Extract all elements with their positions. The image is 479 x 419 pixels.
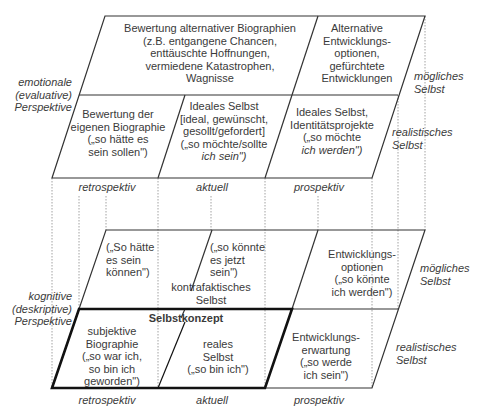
cell-line: optionen	[320, 261, 404, 274]
selbstkonzept-title: Selbstkonzept	[146, 312, 226, 325]
cell-line: („so möchte/sollte	[170, 138, 278, 151]
label-line: Selbst	[166, 294, 256, 307]
cell-ideal-self-prospective: Ideales Selbst, Identitätsprojekte („so …	[280, 106, 384, 156]
cell-line: („so hätte es	[68, 133, 168, 146]
cell-line: es jetzt	[210, 254, 270, 267]
cell-line: („so war ich,	[70, 350, 154, 363]
cell-line: enttäuschte Hoffnungen,	[112, 47, 308, 60]
cell-line: („so könnte	[210, 241, 270, 254]
cell-line: ich werden")	[320, 286, 404, 299]
cell-line: ich werden")	[280, 144, 384, 157]
cell-line: Entwicklungs-	[286, 331, 366, 344]
label-line: realistisches	[396, 341, 478, 354]
cell-real-self: reales Selbst („so bin ich")	[180, 338, 256, 376]
cell-line: optionen,	[302, 47, 412, 60]
cell-line: [ideal, gewünscht,	[170, 113, 278, 126]
cell-alternative-biographies: Bewertung alternativer Biographien (z.B.…	[112, 22, 308, 85]
label-line: Selbst	[392, 139, 478, 152]
cell-line: ich sein")	[286, 369, 366, 382]
cell-line: („so bin ich")	[180, 363, 256, 376]
cognitive-perspective-label: kognitive (deskriptive) Perspektive	[2, 290, 72, 328]
emotional-perspective-label: emotionale (evaluative) Perspektive	[2, 76, 72, 114]
cell-development-options: Entwicklungs- optionen („so könnte ich w…	[320, 248, 404, 298]
cell-line: Bewertung der	[68, 108, 168, 121]
cell-line: Ideales Selbst	[170, 100, 278, 113]
time-label-actual-lower: aktuell	[172, 394, 252, 407]
label-line: Selbst	[396, 354, 478, 367]
cell-line: es sein	[106, 254, 166, 267]
cell-line: Bewertung alternativer Biographien	[112, 22, 308, 35]
cell-line: („so werde	[286, 356, 366, 369]
label-line: kontrafaktisches	[166, 281, 256, 294]
cell-subjective-biography: subjektive Biographie („so war ich, so b…	[70, 325, 154, 388]
cell-line: sein sollen")	[68, 146, 168, 159]
cell-alternative-development-options: Alternative Entwicklungs- optionen, gefü…	[302, 22, 412, 85]
cell-line: so bin ich	[70, 363, 154, 376]
cell-could-be-now: („so könnte es jetzt sein")	[210, 241, 270, 279]
cell-line: („So hätte	[106, 241, 166, 254]
cell-line: Entwicklungs-	[302, 35, 412, 48]
time-label-prospective-upper: prospektiv	[274, 181, 364, 194]
cell-line: vermiedene Katastrophen,	[112, 60, 308, 73]
cell-line: („so möchte	[280, 131, 384, 144]
cell-line: Wagnisse	[112, 72, 308, 85]
label-line: Perspektive	[2, 101, 72, 114]
time-label-prospective-lower: prospektiv	[274, 394, 364, 407]
cell-line: Alternative	[302, 22, 412, 35]
cell-line: reales	[180, 338, 256, 351]
label-line: Selbst	[414, 83, 478, 96]
cell-line: Entwicklungen	[302, 72, 412, 85]
cell-could-have-been: („So hätte es sein können")	[106, 241, 166, 279]
label-line: realistisches	[392, 126, 478, 139]
cell-line: Entwicklungs-	[320, 248, 404, 261]
label-line: kognitive	[2, 290, 72, 303]
cell-line: („so könnte	[320, 273, 404, 286]
counterfactual-self-label: kontrafaktisches Selbst	[166, 281, 256, 306]
cell-evaluation-own-biography: Bewertung der eigenen Biographie („so hä…	[68, 108, 168, 158]
label-line: Perspektive	[2, 315, 72, 328]
possible-self-label-upper: mögliches Selbst	[414, 70, 478, 95]
cell-line: sein")	[210, 266, 270, 279]
time-label-actual-upper: aktuell	[172, 181, 252, 194]
cell-line: können")	[106, 266, 166, 279]
cell-line: gefürchtete	[302, 60, 412, 73]
label-line: emotionale	[2, 76, 72, 89]
label-line: mögliches	[420, 262, 478, 275]
label-line: (deskriptive)	[2, 303, 72, 316]
cell-line: Biographie	[70, 338, 154, 351]
cell-line: Identitätsprojekte	[280, 119, 384, 132]
label-line: Selbst	[420, 275, 478, 288]
cell-development-expectation: Entwicklungs- erwartung („so werde ich s…	[286, 331, 366, 381]
cell-line: gesollt/gefordert]	[170, 125, 278, 138]
cell-line: subjektive	[70, 325, 154, 338]
cell-line: Selbst	[180, 351, 256, 364]
cell-line: Ideales Selbst,	[280, 106, 384, 119]
realistic-self-label-lower: realistisches Selbst	[396, 341, 478, 366]
label-line: mögliches	[414, 70, 478, 83]
cell-line: eigenen Biographie	[68, 121, 168, 134]
cell-ideal-self-actual: Ideales Selbst [ideal, gewünscht, gesoll…	[170, 100, 278, 163]
time-label-retrospective-lower: retrospektiv	[62, 394, 152, 407]
label-line: (evaluative)	[2, 89, 72, 102]
realistic-self-label-upper: realistisches Selbst	[392, 126, 478, 151]
cell-line: (z.B. entgangene Chancen,	[112, 35, 308, 48]
possible-self-label-lower: mögliches Selbst	[420, 262, 478, 287]
cell-line: ich sein")	[170, 150, 278, 163]
cell-line: geworden")	[70, 375, 154, 388]
cell-line: erwartung	[286, 344, 366, 357]
time-label-retrospective-upper: retrospektiv	[62, 181, 152, 194]
